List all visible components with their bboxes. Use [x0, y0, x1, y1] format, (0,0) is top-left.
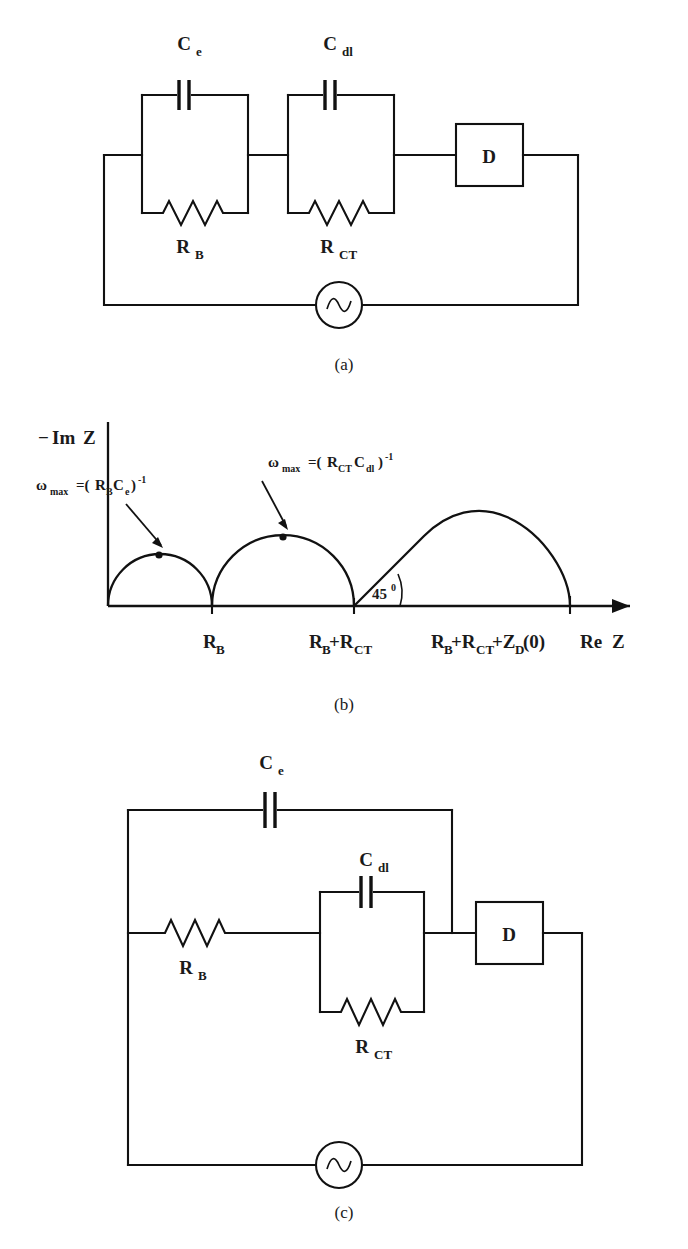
xtick3-paren: (0)	[523, 631, 545, 653]
marker-omega-max-charge-transfer	[279, 533, 286, 540]
annotation-omega-max-charge-transfer: ω max =( R CT C dl ) -1	[262, 451, 393, 530]
curve-charge-transfer-semicircle	[212, 535, 354, 606]
xtick-label-rb-rct: R B +R CT	[309, 631, 372, 657]
annot1-r: R	[95, 477, 106, 493]
label-rct-main-a: R	[320, 236, 334, 257]
caption-b: (b)	[334, 695, 354, 714]
xtick3-z: +Z	[492, 631, 516, 652]
annotation-omega-max-bulk: ω max =( R B C e ) -1	[36, 474, 163, 548]
annot2-omega-sub: max	[282, 463, 300, 474]
panel-a-circuit: C e C dl R B	[0, 0, 688, 400]
label-cdl-main-a: C	[323, 33, 337, 54]
caption-c: (c)	[335, 1203, 354, 1222]
y-axis-label-z: Z	[83, 427, 96, 448]
annot1-close: )	[131, 477, 136, 494]
panel-c-circuit: C e R B C dl R	[0, 740, 688, 1249]
xtick3-r2: +R	[451, 631, 476, 652]
marker-omega-max-bulk	[155, 551, 162, 558]
label-rb-main-a: R	[176, 236, 190, 257]
annot2-omega: ω	[268, 454, 279, 470]
xtick2-r2: +R	[329, 631, 354, 652]
annot2-arrowhead	[278, 519, 288, 530]
label-d-c: D	[502, 924, 516, 945]
angle-45-arc	[398, 574, 402, 606]
label-ce-sub-c: e	[278, 763, 284, 778]
label-rb-sub-c: B	[198, 968, 207, 983]
panel-a-svg: C e C dl R B	[0, 0, 688, 400]
annot1-eq: =(	[76, 477, 90, 494]
resistor-rct-a	[288, 201, 394, 225]
y-axis-label-minus: −	[38, 427, 49, 448]
wire-outer-left-a	[104, 155, 316, 305]
x-axis-label-re: Re	[580, 631, 602, 652]
x-axis-label-z: Z	[612, 631, 625, 652]
y-axis-label-group: − Im Z	[38, 427, 96, 448]
label-rct-main-c: R	[355, 1036, 369, 1057]
element-d-c: D	[476, 902, 543, 964]
xtick-label-rb: R B	[203, 631, 225, 657]
ac-source-a	[316, 282, 362, 328]
rc-block-cdl-rct: R CT	[288, 80, 394, 262]
label-rb-main-c: R	[179, 957, 193, 978]
y-axis-label-im: Im	[52, 427, 75, 448]
label-cdl-main-c: C	[359, 849, 373, 870]
annot2-r-sub: CT	[338, 463, 352, 474]
element-d-a: D	[456, 124, 523, 186]
xtick2-sub2: CT	[354, 642, 372, 657]
wire-bottom-right-c	[362, 933, 582, 1165]
annot2-c: C	[354, 454, 365, 470]
panel-c-svg: C e R B C dl R	[0, 740, 688, 1249]
x-axis-label-group: Re Z	[580, 631, 625, 652]
label-ce-main-c: C	[259, 752, 273, 773]
resistor-rb-a	[142, 201, 248, 225]
resistor-rb-c	[128, 920, 280, 946]
annot2-r: R	[327, 454, 338, 470]
xtick1-r: R	[203, 631, 217, 652]
ac-source-c	[316, 1142, 362, 1188]
xtick1-sub: B	[216, 642, 225, 657]
caption-a: (a)	[335, 355, 354, 374]
label-ce-main-a: C	[177, 33, 191, 54]
annot2-eq: =(	[308, 454, 322, 471]
rc-block-ce-rb: R B	[142, 80, 248, 262]
panel-b-nyquist-chart: − Im Z 45 0 ω	[0, 400, 688, 740]
x-axis-arrowhead	[612, 599, 630, 613]
figure-sheet: C e C dl R B	[0, 0, 688, 1249]
annot2-arrow-line	[262, 481, 286, 526]
label-cdl-sub-a: dl	[342, 44, 353, 59]
label-cdl-sub-c: dl	[378, 860, 389, 875]
xtick2-r1: R	[309, 631, 323, 652]
annot2-sup: -1	[385, 451, 393, 462]
annot1-c: C	[113, 477, 124, 493]
annot1-omega-sub: max	[50, 486, 68, 497]
resistor-rct-c	[320, 999, 424, 1025]
annot1-arrowhead	[152, 537, 163, 548]
xtick-label-rb-rct-zd: R B +R CT +Z D (0)	[431, 631, 545, 657]
annot2-c-sub: dl	[366, 463, 375, 474]
xtick3-r1: R	[431, 631, 445, 652]
angle-45-superscript: 0	[391, 582, 396, 593]
annot1-r-sub: B	[106, 486, 113, 497]
label-rct-sub-a: CT	[339, 247, 357, 262]
angle-45-value: 45	[372, 586, 387, 602]
label-ce-sub-a: e	[196, 44, 202, 59]
annot2-close: )	[378, 454, 383, 471]
curve-bulk-semicircle	[108, 554, 212, 606]
panel-b-svg: − Im Z 45 0 ω	[0, 400, 688, 740]
label-d-a: D	[482, 146, 496, 167]
annot1-sup: -1	[138, 474, 146, 485]
label-rb-sub-a: B	[195, 247, 204, 262]
annot1-omega: ω	[36, 477, 47, 493]
annot1-c-sub: e	[125, 486, 130, 497]
annot1-arrow-line	[126, 504, 161, 545]
label-rct-sub-c: CT	[374, 1047, 392, 1062]
